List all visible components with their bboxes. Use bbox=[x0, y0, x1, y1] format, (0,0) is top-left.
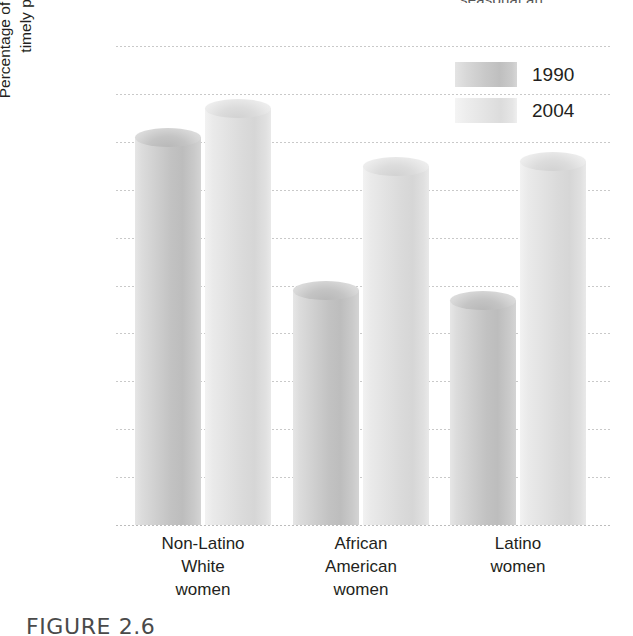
x-category-label-1-line1: Non-Latino bbox=[113, 532, 293, 555]
bar-2004-cat1[interactable] bbox=[205, 99, 271, 525]
x-category-label-3-line1: Latino bbox=[428, 532, 608, 555]
bar-body bbox=[450, 300, 516, 525]
bar-1990-cat1[interactable] bbox=[135, 128, 201, 525]
bar-top-ellipse bbox=[520, 152, 586, 171]
bar-2004-cat3[interactable] bbox=[520, 152, 586, 525]
legend-item-1990[interactable]: 1990 bbox=[455, 60, 615, 89]
legend-item-2004[interactable]: 2004 bbox=[455, 96, 615, 125]
bar-body bbox=[520, 161, 586, 525]
y-axis-title-line1: Percentage of U.S. women using bbox=[0, 0, 13, 98]
bar-top-ellipse bbox=[450, 291, 516, 310]
x-category-label-3-line2: women bbox=[428, 555, 608, 578]
x-category-label-3: Latinowomen bbox=[428, 532, 608, 578]
legend-label-1990: 1990 bbox=[532, 64, 574, 86]
x-category-label-1-line2: White bbox=[113, 555, 293, 578]
bar-1990-cat2[interactable] bbox=[293, 281, 359, 525]
gridline-0 bbox=[116, 525, 612, 526]
legend-label-2004: 2004 bbox=[532, 100, 574, 122]
x-category-label-2-line3: women bbox=[271, 578, 451, 601]
bar-1990-cat3[interactable] bbox=[450, 291, 516, 525]
bar-body bbox=[205, 108, 271, 525]
x-category-label-2-line1: African bbox=[271, 532, 451, 555]
legend: 1990 2004 bbox=[455, 60, 615, 132]
y-axis-title-line2: timely prenatal care bbox=[15, 0, 36, 150]
figure-container: seasonal an Percentage of U.S. women usi… bbox=[0, 0, 633, 636]
x-category-label-2-line2: American bbox=[271, 555, 451, 578]
gridline-100 bbox=[116, 46, 612, 47]
bar-body bbox=[363, 166, 429, 525]
figure-caption: FIGURE 2.6 bbox=[26, 614, 155, 636]
cut-off-header-text: seasonal an bbox=[460, 0, 543, 3]
bar-body bbox=[293, 290, 359, 525]
x-category-label-1-line3: women bbox=[113, 578, 293, 601]
legend-swatch-1990 bbox=[455, 62, 517, 87]
bar-top-ellipse bbox=[363, 157, 429, 176]
bar-top-ellipse bbox=[135, 128, 201, 147]
bar-body bbox=[135, 137, 201, 525]
bar-2004-cat2[interactable] bbox=[363, 157, 429, 525]
legend-swatch-2004 bbox=[455, 98, 517, 123]
x-category-label-2: AfricanAmericanwomen bbox=[271, 532, 451, 601]
y-axis-title: Percentage of U.S. women using timely pr… bbox=[0, 0, 36, 150]
x-category-label-1: Non-LatinoWhitewomen bbox=[113, 532, 293, 601]
